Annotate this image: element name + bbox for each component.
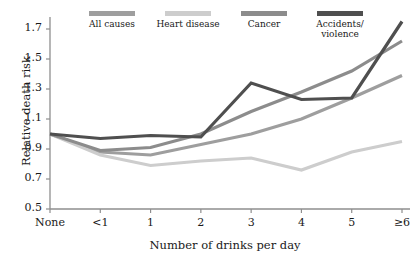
x-axis-title: Number of drinks per day xyxy=(50,238,400,252)
y-tick-label: 0.9 xyxy=(8,141,42,154)
legend-swatch-icon xyxy=(317,11,363,16)
x-tick-label: 3 xyxy=(231,216,271,229)
y-tick-label: 1.7 xyxy=(8,21,42,34)
legend-entry-4[interactable]: Accidents/ violence xyxy=(302,11,378,39)
y-tick-label: 0.5 xyxy=(8,201,42,214)
series-line-3 xyxy=(50,41,402,151)
legend-label: Accidents/ violence xyxy=(316,19,364,39)
legend-label: All causes xyxy=(89,19,135,29)
x-tick-label: None xyxy=(30,216,70,229)
legend-swatch-icon xyxy=(89,11,135,16)
x-tick-label: 4 xyxy=(281,216,321,229)
legend-entry-1[interactable]: All causes xyxy=(74,11,150,29)
legend-entry-3[interactable]: Cancer xyxy=(226,11,302,29)
legend-entry-2[interactable]: Heart disease xyxy=(150,11,226,29)
x-tick-label: 5 xyxy=(332,216,372,229)
legend-swatch-icon xyxy=(241,11,287,16)
series-line-4 xyxy=(50,22,402,139)
y-tick-label: 0.7 xyxy=(8,171,42,184)
series-line-1 xyxy=(50,76,402,156)
legend-label: Heart disease xyxy=(156,19,219,29)
legend-swatch-icon xyxy=(165,11,211,16)
y-tick-label: 1.3 xyxy=(8,81,42,94)
legend-label: Cancer xyxy=(248,19,281,29)
y-tick-label: 1.1 xyxy=(8,111,42,124)
y-tick-label: 1.5 xyxy=(8,51,42,64)
chart-legend: All causesHeart diseaseCancerAccidents/ … xyxy=(74,11,378,39)
x-tick-label: <1 xyxy=(80,216,120,229)
chart-figure: All causesHeart diseaseCancerAccidents/ … xyxy=(0,0,419,264)
x-tick-label: 1 xyxy=(131,216,171,229)
x-tick-label: 2 xyxy=(181,216,221,229)
x-tick-label: ≥6 xyxy=(382,216,419,229)
